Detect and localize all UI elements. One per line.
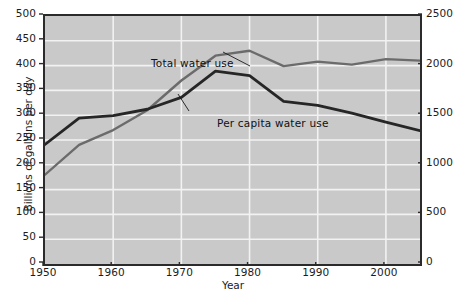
x-tick-1980: 1980 xyxy=(223,266,273,278)
plot-area: Total water use Per capita water use xyxy=(43,14,422,266)
y-axis-left-title: Billions of gallons per day xyxy=(22,64,34,224)
y-right-tick-1500: 1500 xyxy=(426,106,466,118)
series-line-2 xyxy=(45,71,420,144)
y-left-tick-50: 50 xyxy=(0,230,36,242)
x-axis-title: Year xyxy=(0,279,466,291)
y-right-tick-0: 0 xyxy=(426,255,466,267)
y-right-tick-2000: 2000 xyxy=(426,57,466,69)
x-tick-1970: 1970 xyxy=(154,266,204,278)
annotation-total-water-use: Total water use xyxy=(151,57,234,69)
y-left-tick-500: 500 xyxy=(0,7,36,19)
x-tick-2000: 2000 xyxy=(359,266,409,278)
annotation-per-capita-water-use: Per capita water use xyxy=(217,117,329,129)
chart-figure: Total water use Per capita water use 050… xyxy=(0,0,466,303)
x-tick-1990: 1990 xyxy=(291,266,341,278)
y-right-tick-2500: 2500 xyxy=(426,7,466,19)
y-right-tick-1000: 1000 xyxy=(426,156,466,168)
series-line-1 xyxy=(45,51,420,175)
data-series-layer xyxy=(45,16,420,264)
x-tick-1960: 1960 xyxy=(86,266,136,278)
x-tick-1950: 1950 xyxy=(18,266,68,278)
y-left-tick-450: 450 xyxy=(0,32,36,44)
y-right-tick-500: 500 xyxy=(426,205,466,217)
